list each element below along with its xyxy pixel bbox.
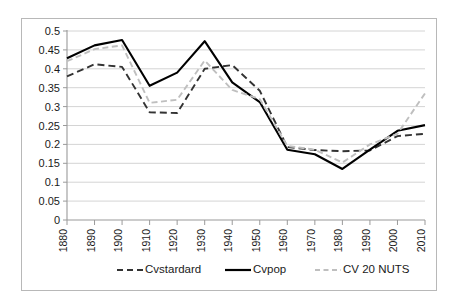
y-tick-label: 0.25: [39, 120, 60, 132]
y-tick-labels: 00.050.10.150.20.250.30.350.40.450.5: [39, 25, 60, 226]
x-tick-label: 1980: [332, 229, 344, 253]
x-tick-label: 1970: [305, 229, 317, 253]
data-series: [67, 40, 425, 169]
x-tick-label: 1920: [167, 229, 179, 253]
x-tick-label: 1960: [277, 229, 289, 253]
x-tick-label: 1930: [195, 229, 207, 253]
series-line-cvpop: [67, 40, 425, 169]
chart-legend: CvstardardCvpopCV 20 NUTS: [117, 263, 410, 275]
x-tick-label: 1940: [222, 229, 234, 253]
y-tick-label: 0.1: [45, 176, 60, 188]
series-line-cvstardard: [67, 64, 425, 151]
x-tick-label: 2000: [387, 229, 399, 253]
x-tick-label: 1950: [250, 229, 262, 253]
x-tick-label: 1910: [140, 229, 152, 253]
legend-label-cv-20-nuts: CV 20 NUTS: [343, 263, 410, 275]
x-tick-label: 1880: [57, 229, 69, 253]
y-tick-label: 0.3: [45, 101, 60, 113]
x-axis: [67, 220, 425, 225]
x-tick-labels: 1880189019001910192019301940195019601970…: [57, 229, 427, 253]
x-tick-label: 1890: [85, 229, 97, 253]
series-line-cv-20-nuts: [67, 45, 425, 162]
y-axis: [63, 30, 67, 220]
legend-label-cvpop: Cvpop: [253, 263, 286, 275]
chart-frame: 00.050.10.150.20.250.30.350.40.450.5 188…: [21, 18, 437, 291]
y-tick-label: 0.05: [39, 195, 60, 207]
x-tick-label: 2010: [415, 229, 427, 253]
x-tick-label: 1900: [112, 229, 124, 253]
y-tick-label: 0.5: [45, 25, 60, 37]
gridlines: [67, 31, 425, 201]
y-tick-label: 0.15: [39, 157, 60, 169]
line-chart: 00.050.10.150.20.250.30.350.40.450.5 188…: [22, 19, 436, 290]
legend-label-cvstardard: Cvstardard: [145, 263, 201, 275]
x-tick-label: 1990: [360, 229, 372, 253]
y-tick-label: 0.4: [45, 63, 60, 75]
y-tick-label: 0.2: [45, 138, 60, 150]
y-tick-label: 0.45: [39, 44, 60, 56]
y-tick-label: 0.35: [39, 82, 60, 94]
y-tick-label: 0: [54, 214, 60, 226]
